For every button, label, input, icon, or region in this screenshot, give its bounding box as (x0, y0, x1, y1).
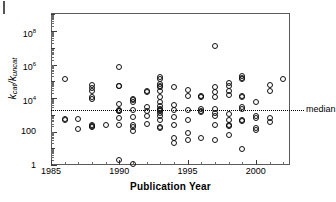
data-point (171, 140, 177, 146)
y-tick-decade (51, 148, 55, 149)
x-tick-minor (270, 162, 271, 165)
y-tick-minor (51, 68, 54, 69)
y-tick-minor (51, 67, 54, 68)
y-tick-minor (51, 140, 54, 141)
data-point (157, 117, 163, 123)
data-point (89, 124, 95, 130)
x-tick-minor (283, 162, 284, 165)
x-tick-minor (92, 162, 93, 165)
y-tick-minor (51, 157, 54, 158)
y-tick-decade (51, 14, 55, 15)
y-tick-minor (51, 21, 54, 22)
y-tick-minor (51, 73, 54, 74)
y-tick-decade (51, 48, 55, 49)
y-tick-minor (51, 60, 54, 61)
y-tick-minor (51, 143, 54, 144)
y-tick-decade (51, 81, 55, 82)
y-tick-minor (51, 132, 54, 133)
x-tick-major (188, 160, 189, 165)
y-tick-minor (51, 50, 54, 51)
y-tick-minor (51, 49, 54, 50)
data-point (62, 117, 68, 123)
y-tick-minor (51, 19, 54, 20)
y-tick-minor (51, 43, 54, 44)
data-point (144, 89, 150, 95)
y-tick-minor (51, 66, 54, 67)
x-tick-minor (78, 162, 79, 165)
data-point (185, 93, 191, 99)
y-tick-minor (51, 137, 54, 138)
data-point (226, 132, 232, 138)
y-tick-minor (51, 33, 54, 34)
data-point (75, 126, 81, 132)
x-tick-minor (65, 162, 66, 165)
data-point (130, 99, 136, 105)
y-tick-minor (51, 93, 54, 94)
x-tick-label: 1990 (99, 167, 139, 176)
median-label: median (306, 105, 336, 114)
x-tick-minor (215, 162, 216, 165)
y-tick-minor (51, 36, 54, 37)
y-tick-minor (51, 23, 54, 24)
y-tick-minor (51, 71, 54, 72)
y-axis-title-k1: k (6, 94, 18, 99)
y-tick-minor (51, 34, 54, 35)
y-tick-minor (51, 70, 54, 71)
y-tick-minor (51, 16, 54, 17)
x-tick-minor (242, 162, 243, 165)
median-line (51, 110, 304, 111)
y-tick-minor (51, 152, 54, 153)
y-tick-minor (51, 121, 54, 122)
x-tick-major (256, 160, 257, 165)
data-point (198, 94, 204, 100)
y-tick-minor (51, 101, 54, 102)
y-tick-minor (51, 118, 54, 119)
y-tick-minor (51, 53, 54, 54)
x-tick-label: 1985 (31, 167, 71, 176)
y-tick-minor (51, 150, 54, 151)
data-point (185, 117, 191, 123)
data-point (144, 121, 150, 127)
y-tick-decade (51, 115, 55, 116)
y-tick-minor (51, 155, 54, 156)
y-tick-minor (51, 83, 54, 84)
data-point (185, 137, 191, 143)
x-tick-major (51, 160, 52, 165)
y-tick-minor (51, 57, 54, 58)
y-tick-minor (51, 86, 54, 87)
y-tick-minor (51, 90, 54, 91)
y-tick-minor (51, 105, 54, 106)
y-tick-minor (51, 117, 54, 118)
y-tick-minor (51, 65, 54, 66)
panel-corner-mark (3, 1, 5, 14)
y-tick-minor (51, 134, 54, 135)
y-tick-minor (51, 153, 54, 154)
data-point (89, 96, 95, 102)
x-tick-minor (160, 162, 161, 165)
data-point (267, 119, 273, 125)
y-tick-minor (51, 120, 54, 121)
y-tick-minor (51, 52, 54, 53)
x-tick-minor (174, 162, 175, 165)
x-tick-label: 2000 (236, 167, 276, 176)
data-point (171, 84, 177, 90)
y-tick-minor (51, 54, 54, 55)
y-tick-minor (51, 26, 54, 27)
y-tick-minor (51, 85, 54, 86)
x-tick-minor (147, 162, 148, 165)
y-tick-minor (51, 84, 54, 85)
data-point (130, 107, 136, 113)
data-point (212, 122, 218, 128)
y-axis-title: kcat/kuncat (6, 31, 19, 127)
y-tick-minor (51, 126, 54, 127)
y-tick-minor (51, 76, 54, 77)
data-point (253, 127, 259, 133)
y-axis-title-sub-cat: cat (10, 84, 19, 94)
data-point (171, 107, 177, 113)
data-point (103, 122, 109, 128)
y-axis-title-sub-uncat: uncat (10, 58, 19, 76)
y-tick-minor (51, 17, 54, 18)
y-tick-minor (51, 151, 54, 152)
y-tick-minor (51, 18, 54, 19)
